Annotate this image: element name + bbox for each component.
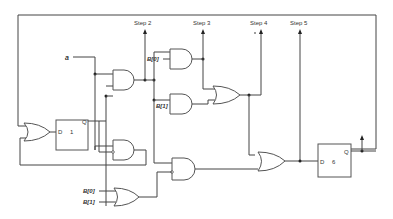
ff6-d-label: D <box>320 159 325 165</box>
and-gate-middle <box>171 158 258 180</box>
b0-upper-input: B[0] <box>147 56 170 62</box>
flipflop-6: D 6 Q <box>318 144 351 177</box>
input-a-label: a <box>65 54 69 61</box>
b1-lower-label: B[1] <box>83 199 96 205</box>
ff1-d-label: D <box>58 129 63 135</box>
b0-upper-label: B[0] <box>147 56 160 62</box>
or-gate-b-inputs: B[0] B[1] <box>83 172 172 206</box>
step3-label: Step 3 <box>193 20 211 26</box>
step5-output: Step 5 <box>290 20 308 161</box>
and-gate-b0 <box>170 49 205 69</box>
ff6-q-label: Q <box>344 149 349 155</box>
step2-output: Step 2 <box>134 20 152 80</box>
and-gate-upper <box>106 70 156 90</box>
step2-label: Step 2 <box>134 20 152 26</box>
or-gate-step4 <box>213 86 261 104</box>
ff6-q-output <box>351 135 376 153</box>
b0-lower-label: B[0] <box>83 188 96 194</box>
step3-output: Step 3 <box>193 20 215 89</box>
flipflop-1: D 1 Q <box>56 119 88 150</box>
or-gate-ff1-input <box>20 123 56 165</box>
or-gate-final <box>258 152 318 171</box>
step4-output: Step 4 <box>249 20 268 155</box>
and-gate-b1 <box>170 94 215 114</box>
step4-label: Step 4 <box>250 20 268 26</box>
step5-label: Step 5 <box>290 20 308 26</box>
ff1-q-label: Q <box>82 119 87 125</box>
b1-upper-label: B[1] <box>156 103 169 109</box>
logic-circuit-diagram: D 1 Q a Step 2 <box>0 0 393 219</box>
